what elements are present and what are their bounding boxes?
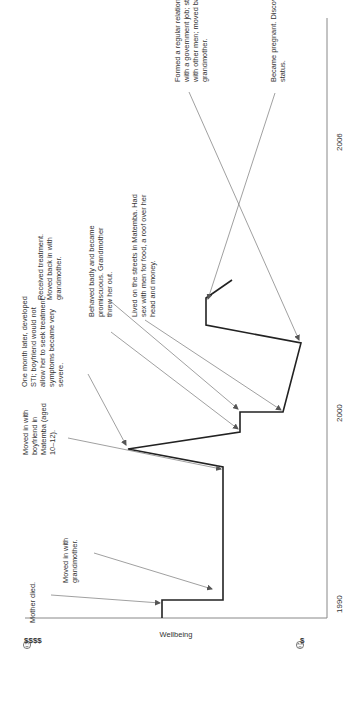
leader-sti bbox=[88, 374, 126, 445]
svg-text:boyfriend in: boyfriend in bbox=[30, 417, 39, 455]
svg-text:10–12).: 10–12). bbox=[48, 430, 57, 455]
svg-text:Moved back in with: Moved back in with bbox=[45, 237, 54, 300]
svg-text:Became pregnant. Discovered he: Became pregnant. Discovered her HIV+ bbox=[269, 0, 278, 82]
svg-text:grandmother.: grandmother. bbox=[70, 539, 79, 583]
x-tick-2000: 2000 bbox=[335, 404, 344, 422]
money-high-label: $$$$ bbox=[24, 636, 42, 645]
annotation-sti: One month later, developed STI; boyfrien… bbox=[20, 296, 65, 387]
svg-text:symptoms became very: symptoms became very bbox=[47, 309, 56, 387]
svg-text:with a government job; stopped: with a government job; stopped having se… bbox=[182, 0, 191, 83]
svg-text:allow her to seek treatment;: allow her to seek treatment; bbox=[38, 296, 47, 387]
svg-text:Received treatment.: Received treatment. bbox=[36, 234, 45, 300]
svg-text:One month later, developed: One month later, developed bbox=[20, 296, 29, 387]
wellbeing-chart: 1990 2000 2006 Wellbeing $$$$ $ Mother d… bbox=[0, 0, 362, 709]
leader-grandmother bbox=[94, 553, 212, 589]
annotation-behaved: Behaved badly and became promiscuous. Gr… bbox=[87, 225, 114, 317]
x-tick-1990: 1990 bbox=[335, 595, 344, 613]
leader-streets bbox=[145, 320, 281, 410]
leader-pregnant bbox=[208, 93, 275, 299]
svg-text:with other men; moved back in: with other men; moved back in with her bbox=[191, 0, 200, 83]
svg-text:severe.: severe. bbox=[56, 363, 65, 387]
leader-boyfriend bbox=[68, 438, 221, 469]
annotation-streets: Lived on the streets in Matemba. Had sex… bbox=[130, 194, 157, 317]
svg-text:sex with men for food, a roof: sex with men for food, a roof over her bbox=[139, 194, 148, 317]
leader-treatment bbox=[109, 300, 238, 409]
svg-text:status.: status. bbox=[278, 60, 287, 82]
svg-text:grandmother.: grandmother. bbox=[200, 38, 209, 82]
svg-text:STI; boyfriend would not: STI; boyfriend would not bbox=[29, 307, 38, 387]
annotation-pregnant: Became pregnant. Discovered her HIV+ sta… bbox=[269, 0, 287, 82]
annotation-grandmother: Moved in with grandmother. bbox=[61, 538, 79, 583]
x-tick-2006: 2006 bbox=[335, 133, 344, 151]
svg-text:Formed a regular relationship: Formed a regular relationship with a man bbox=[173, 0, 182, 82]
rotated-chart-frame: 1990 2000 2006 Wellbeing $$$$ $ Mother d… bbox=[0, 0, 362, 709]
svg-text:Behaved badly and became: Behaved badly and became bbox=[87, 225, 96, 317]
svg-text:threw her out.: threw her out. bbox=[105, 272, 114, 317]
annotation-treatment: Received treatment. Moved back in with g… bbox=[36, 234, 63, 300]
annotation-relationship: Formed a regular relationship with a man… bbox=[173, 0, 209, 83]
annotation-mother-died: Mother died. bbox=[28, 582, 37, 623]
svg-text:grandmother.: grandmother. bbox=[54, 256, 63, 300]
wellbeing-line bbox=[128, 280, 301, 618]
annotation-boyfriend: Moved in with boyfriend in Matemba (aged… bbox=[21, 403, 57, 455]
y-axis-label: Wellbeing bbox=[160, 630, 193, 639]
svg-text:Matemba (aged: Matemba (aged bbox=[39, 403, 48, 455]
leader-behaved bbox=[111, 332, 238, 429]
svg-text:Lived on the streets in Matemb: Lived on the streets in Matemba. Had bbox=[130, 194, 139, 317]
leader-mother-died bbox=[51, 595, 160, 603]
svg-text:promiscuous. Grandmother: promiscuous. Grandmother bbox=[96, 227, 105, 317]
svg-text:head and money.: head and money. bbox=[148, 260, 157, 317]
svg-text:Mother died.: Mother died. bbox=[28, 582, 37, 623]
svg-text:Moved in with: Moved in with bbox=[21, 410, 30, 455]
money-low-label: $ bbox=[300, 636, 305, 645]
svg-text:Moved in with: Moved in with bbox=[61, 538, 70, 583]
